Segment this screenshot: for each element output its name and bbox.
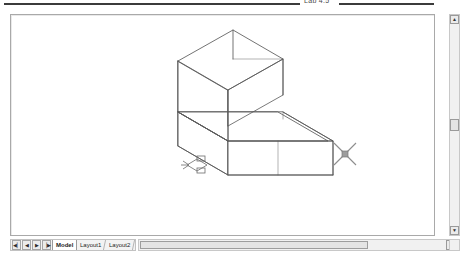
scroll-down-icon[interactable]: ▼ xyxy=(450,226,459,235)
bottom-bar: ◀▏ ◀ ▶ ▕▶ Model Layout1 Layout2 ◄ xyxy=(10,239,457,251)
layout-tab-strip: ◀▏ ◀ ▶ ▕▶ Model Layout1 Layout2 xyxy=(10,239,136,251)
tab-next-button[interactable]: ▶ xyxy=(32,240,41,250)
figure-caption-bar: Lab 4.5 xyxy=(0,0,467,7)
cad-application-window: ▲ ▼ ◀▏ ◀ ▶ ▕▶ Model Layout1 Layout2 ◄ xyxy=(8,11,460,254)
tab-model-label: Model xyxy=(56,240,73,250)
horizontal-scrollbar-thumb[interactable] xyxy=(140,241,368,249)
caption-rule-left xyxy=(4,3,300,5)
caption-text: Lab 4.5 xyxy=(304,0,329,4)
vertical-scrollbar-thumb[interactable] xyxy=(450,119,459,131)
drawing-canvas[interactable] xyxy=(10,14,435,236)
tab-layout1[interactable]: Layout1 xyxy=(76,240,106,250)
horizontal-scrollbar[interactable]: ◄ xyxy=(138,239,457,251)
isometric-stepped-solid-wireframe xyxy=(178,30,333,175)
scrollbar-corner xyxy=(449,239,460,251)
tab-layout2-label: Layout2 xyxy=(109,240,130,250)
tab-layout2[interactable]: Layout2 xyxy=(105,240,135,250)
tab-last-button[interactable]: ▕▶ xyxy=(42,240,51,250)
ucs-icon xyxy=(181,156,207,173)
crosshair-pickbox-cursor xyxy=(334,143,356,165)
scroll-up-icon[interactable]: ▲ xyxy=(450,15,459,24)
wireframe-viewport xyxy=(11,15,432,233)
tab-model[interactable]: Model xyxy=(52,240,77,250)
vertical-scrollbar[interactable]: ▲ ▼ xyxy=(449,14,460,236)
tab-first-button[interactable]: ◀▏ xyxy=(12,240,21,250)
caption-rule-right xyxy=(339,3,434,5)
tab-prev-button[interactable]: ◀ xyxy=(22,240,31,250)
tab-layout1-label: Layout1 xyxy=(80,240,101,250)
